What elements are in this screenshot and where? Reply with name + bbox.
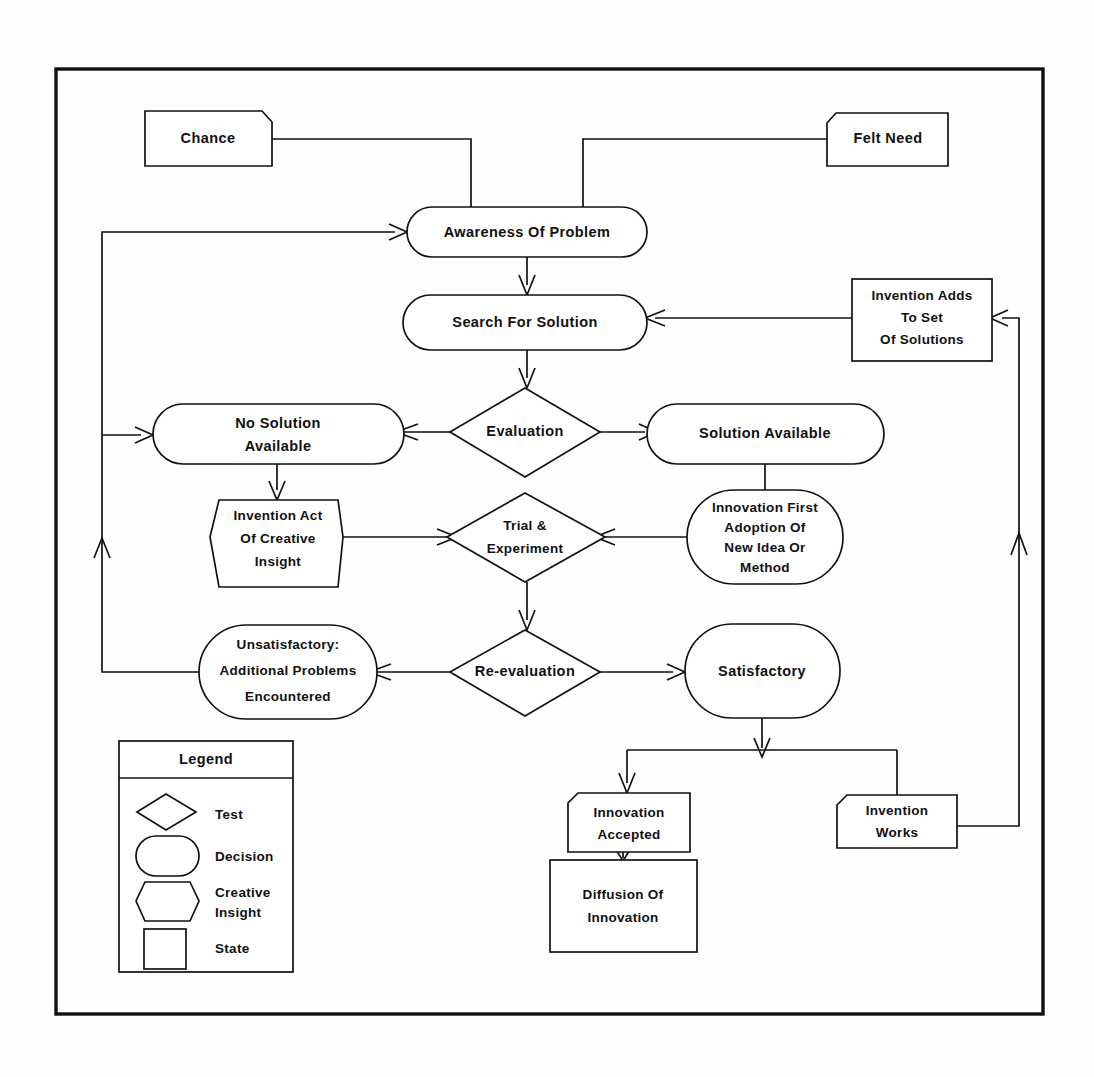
node-innovation-accepted[interactable]: Innovation Accepted: [568, 793, 690, 852]
node-invention-adds-line1: Invention Adds: [871, 288, 972, 303]
node-diffusion-line2: Innovation: [587, 910, 658, 925]
node-chance[interactable]: Chance: [145, 111, 272, 166]
node-felt-need-label: Felt Need: [854, 130, 923, 146]
node-invention-adds-line2: To Set: [901, 310, 943, 325]
node-innovation-first-line4: Method: [740, 560, 790, 575]
node-unsatisfactory-line1: Unsatisfactory:: [237, 637, 340, 652]
legend-label-insight: Insight: [215, 905, 262, 920]
node-innovation-first-line2: Adoption Of: [724, 520, 805, 535]
node-search-label: Search For Solution: [452, 314, 597, 330]
node-evaluation-label: Evaluation: [486, 423, 563, 439]
legend-icon-state-icon: [144, 929, 186, 969]
node-unsatisfactory-line3: Encountered: [245, 689, 331, 704]
legend-label-creative: Creative: [215, 885, 271, 900]
node-no-solution-line2: Available: [245, 438, 312, 454]
node-innovation-first-line3: New Idea Or: [724, 540, 806, 555]
legend: Legend Test Decision Creative Insight St…: [119, 741, 293, 972]
node-re-evaluation-label: Re-evaluation: [475, 663, 575, 679]
node-invention-act-line3: Insight: [255, 554, 302, 569]
edge-inventionworks-to-inventionadds: [957, 318, 1019, 826]
node-satisfactory-label: Satisfactory: [718, 663, 806, 679]
node-invention-adds-line3: Of Solutions: [880, 332, 964, 347]
node-innovation-first[interactable]: Innovation First Adoption Of New Idea Or…: [687, 490, 843, 584]
node-solution-available-label: Solution Available: [699, 425, 831, 441]
node-awareness-of-problem[interactable]: Awareness Of Problem: [407, 207, 647, 257]
node-unsatisfactory[interactable]: Unsatisfactory: Additional Problems Enco…: [199, 625, 377, 719]
node-evaluation[interactable]: Evaluation: [450, 388, 600, 477]
node-solution-available[interactable]: Solution Available: [647, 404, 884, 464]
node-invention-adds[interactable]: Invention Adds To Set Of Solutions: [852, 279, 992, 361]
node-innovation-accepted-line1: Innovation: [593, 805, 664, 820]
node-unsatisfactory-line2: Additional Problems: [220, 663, 357, 678]
diagram-page: Chance Felt Need Awareness Of Problem Se…: [0, 0, 1094, 1077]
node-felt-need[interactable]: Felt Need: [827, 113, 948, 166]
legend-label-test: Test: [215, 807, 243, 822]
legend-label-decision: Decision: [215, 849, 274, 864]
node-awareness-label: Awareness Of Problem: [444, 224, 611, 240]
node-trial-line2: Experiment: [487, 541, 564, 556]
node-no-solution-available[interactable]: No Solution Available: [153, 404, 404, 464]
node-invention-act-line1: Invention Act: [234, 508, 323, 523]
node-invention-act[interactable]: Invention Act Of Creative Insight: [210, 500, 343, 587]
node-satisfactory[interactable]: Satisfactory: [685, 624, 840, 718]
node-invention-works[interactable]: Invention Works: [837, 795, 957, 848]
node-trial-experiment[interactable]: Trial & Experiment: [447, 493, 605, 582]
node-search-for-solution[interactable]: Search For Solution: [403, 295, 647, 350]
legend-label-state: State: [215, 941, 250, 956]
node-no-solution-line1: No Solution: [235, 415, 321, 431]
node-trial-line1: Trial &: [503, 518, 546, 533]
legend-title: Legend: [179, 751, 233, 767]
node-invention-works-line1: Invention: [866, 803, 929, 818]
flowchart-canvas: Chance Felt Need Awareness Of Problem Se…: [0, 0, 1094, 1077]
node-chance-label: Chance: [181, 130, 236, 146]
node-diffusion-line1: Diffusion Of: [583, 887, 664, 902]
node-invention-works-line2: Works: [876, 825, 919, 840]
legend-icon-creative-insight-icon: [136, 882, 199, 921]
node-innovation-accepted-line2: Accepted: [597, 827, 660, 842]
legend-icon-decision-icon: [136, 836, 199, 876]
node-diffusion-of-innovation[interactable]: Diffusion Of Innovation: [550, 860, 697, 952]
node-invention-act-line2: Of Creative: [240, 531, 316, 546]
node-re-evaluation[interactable]: Re-evaluation: [450, 630, 600, 716]
node-innovation-first-line1: Innovation First: [712, 500, 818, 515]
